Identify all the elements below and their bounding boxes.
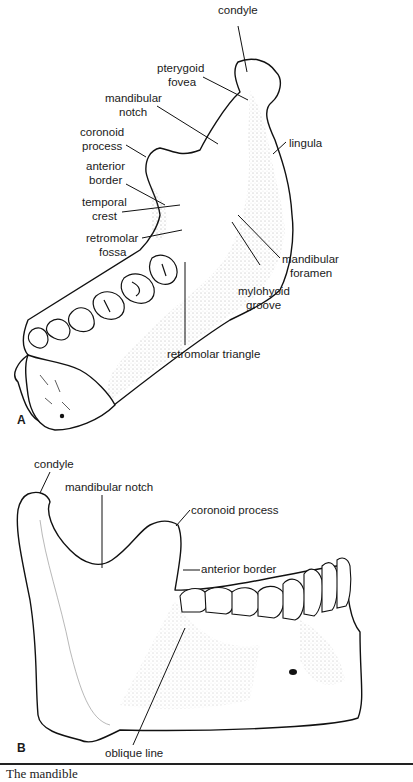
panel-b-bone	[17, 492, 361, 742]
label-b-oblique-line: oblique line	[105, 747, 163, 760]
label-b-mandibular-notch: mandibular notch	[65, 481, 153, 494]
label-a-coronoid-process-2: process	[82, 140, 122, 153]
label-a-mandibular-foramen-2: foramen	[290, 267, 332, 280]
label-a-pterygoid-fovea-2: fovea	[168, 76, 196, 89]
panel-a-letter: A	[17, 413, 26, 427]
label-a-mandibular-notch-1: mandibular	[105, 92, 162, 105]
label-a-retromolar-fossa-2: fossa	[99, 246, 127, 259]
label-a-temporal-crest-1: temporal	[82, 196, 127, 209]
label-a-mandibular-notch-2: notch	[119, 106, 147, 119]
label-a-mandibular-foramen-1: mandibular	[282, 253, 339, 266]
label-a-pterygoid-fovea-1: pterygoid	[157, 62, 204, 75]
label-a-temporal-crest-2: crest	[92, 210, 117, 223]
label-a-lingula: lingula	[289, 137, 322, 150]
label-b-condyle: condyle	[34, 458, 74, 471]
panel-b-letter: B	[17, 741, 26, 755]
label-a-mylohyoid-groove-2: groove	[246, 299, 281, 312]
panel-a-bone	[15, 59, 293, 430]
label-a-anterior-border-2: border	[89, 174, 122, 187]
label-b-anterior-border: anterior border	[201, 563, 276, 576]
label-a-condyle: condyle	[218, 4, 258, 17]
label-a-coronoid-process-1: coronoid	[80, 126, 124, 139]
label-a-retromolar-fossa-1: retromolar	[86, 232, 138, 245]
figure-caption: The mandible	[6, 766, 78, 782]
label-a-mylohyoid-groove-1: mylohyoid	[238, 285, 290, 298]
label-a-anterior-border-1: anterior	[86, 160, 125, 173]
label-a-retromolar-triangle: retromolar triangle	[167, 348, 260, 361]
label-b-coronoid-process: coronoid process	[191, 504, 279, 517]
caption-divider	[0, 763, 413, 765]
